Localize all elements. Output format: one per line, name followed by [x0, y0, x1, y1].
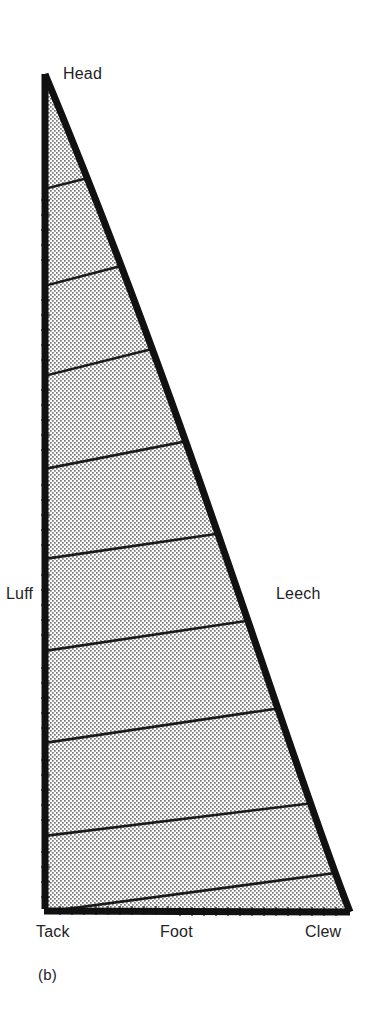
foot-edge — [44, 911, 350, 912]
label-head: Head — [63, 66, 102, 82]
label-leech: Leech — [276, 586, 321, 602]
sail-figure: Head Luff Leech Tack Foot Clew (b) — [0, 0, 371, 1015]
label-foot: Foot — [160, 924, 193, 940]
label-luff: Luff — [6, 586, 33, 602]
figure-caption: (b) — [38, 967, 57, 982]
label-tack: Tack — [36, 924, 70, 940]
sail-drawing — [0, 0, 371, 1015]
label-clew: Clew — [305, 924, 341, 940]
